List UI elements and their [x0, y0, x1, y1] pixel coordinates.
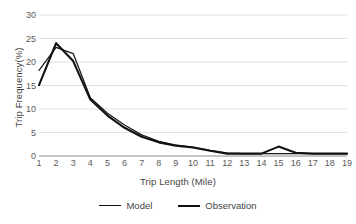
y-tick-label: 15 — [26, 81, 36, 91]
x-tick-label: 6 — [122, 158, 127, 168]
chart-legend: ModelObservation — [0, 200, 356, 211]
x-tick-label: 19 — [342, 158, 352, 168]
y-tick-label: 30 — [26, 10, 36, 20]
x-axis-tick-labels: 12345678910111213141516171819 — [39, 158, 347, 172]
legend-label: Model — [126, 200, 152, 211]
x-tick-label: 13 — [239, 158, 249, 168]
y-tick-label: 25 — [26, 34, 36, 44]
legend-swatch-icon — [178, 205, 200, 207]
x-tick-label: 3 — [71, 158, 76, 168]
y-tick-label: 20 — [26, 57, 36, 67]
legend-swatch-icon — [99, 205, 121, 206]
x-tick-label: 18 — [325, 158, 335, 168]
series-line-model — [39, 47, 347, 153]
series-line-observation — [39, 43, 347, 153]
x-tick-label: 11 — [205, 158, 214, 168]
x-tick-label: 8 — [156, 158, 161, 168]
plot-area — [39, 15, 347, 156]
x-tick-label: 5 — [105, 158, 110, 168]
y-tick-label: 0 — [31, 151, 36, 161]
x-tick-label: 10 — [188, 158, 198, 168]
x-tick-label: 14 — [256, 158, 266, 168]
x-tick-label: 15 — [274, 158, 284, 168]
trip-length-frequency-chart: Trip Frequency(%) 051015202530 123456789… — [0, 0, 356, 224]
plot-svg — [39, 15, 347, 156]
x-tick-label: 17 — [308, 158, 318, 168]
x-tick-label: 7 — [139, 158, 144, 168]
x-tick-label: 4 — [88, 158, 93, 168]
x-tick-label: 1 — [36, 158, 41, 168]
y-tick-label: 5 — [31, 128, 36, 138]
legend-label: Observation — [205, 200, 256, 211]
legend-item-observation[interactable]: Observation — [178, 200, 256, 211]
y-tick-label: 10 — [26, 104, 36, 114]
x-axis-title: Trip Length (Mile) — [0, 176, 356, 187]
x-tick-label: 12 — [222, 158, 232, 168]
x-tick-label: 2 — [54, 158, 59, 168]
y-axis-tick-labels: 051015202530 — [14, 0, 36, 224]
x-tick-label: 16 — [291, 158, 301, 168]
series-lines — [39, 43, 347, 153]
legend-item-model[interactable]: Model — [99, 200, 152, 211]
x-tick-label: 9 — [173, 158, 178, 168]
